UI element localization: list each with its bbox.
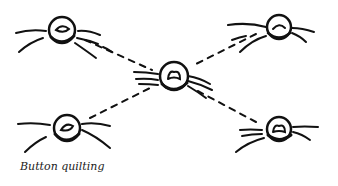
figure-caption: Button quilting xyxy=(20,160,104,173)
button-top-left-icon xyxy=(16,17,112,58)
button-bottom-right-icon xyxy=(236,117,318,152)
button-quilting-illustration xyxy=(0,0,338,186)
button-top-right-icon xyxy=(228,15,314,52)
button-bottom-left-icon xyxy=(18,115,110,152)
